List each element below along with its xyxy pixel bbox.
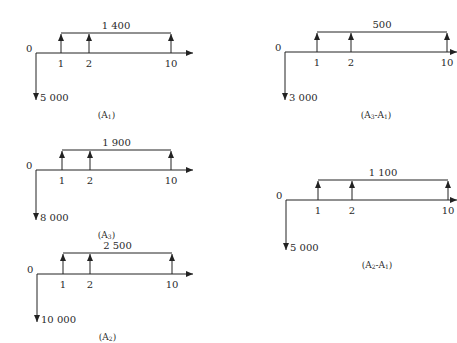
outflow-label: 5 000 xyxy=(40,93,69,103)
caption-text: -A xyxy=(374,110,384,120)
outflow-label: 8 000 xyxy=(40,213,69,223)
caption-text: ) xyxy=(388,110,392,120)
annuity-label: 1 400 xyxy=(102,21,131,31)
tick-label-10: 10 xyxy=(166,280,179,290)
tick-label-10: 10 xyxy=(441,58,454,68)
diagram-caption: (A2-A1) xyxy=(362,260,393,272)
outflow-label: 5 000 xyxy=(290,243,319,253)
tick-label-1: 1 xyxy=(315,206,321,216)
tick-label-10: 10 xyxy=(442,206,455,216)
diagram-caption: (A3-A1) xyxy=(361,110,392,122)
tick-label-1: 1 xyxy=(314,58,320,68)
caption-text: (A xyxy=(99,332,109,342)
annuity-label: 1 900 xyxy=(102,138,131,148)
annuity-label: 500 xyxy=(372,20,391,30)
tick-label-1: 1 xyxy=(60,280,66,290)
tick-label-2: 2 xyxy=(86,59,92,69)
caption-text: -A xyxy=(375,260,385,270)
tick-label-10: 10 xyxy=(165,59,178,69)
tick-label-2: 2 xyxy=(349,206,355,216)
outflow-label: 3 000 xyxy=(289,93,318,103)
outflow-label: 10 000 xyxy=(41,315,76,325)
annuity-label: 1 100 xyxy=(369,168,398,178)
annuity-label: 2 500 xyxy=(103,241,132,251)
caption-text: ) xyxy=(112,230,116,240)
caption-text: (A xyxy=(98,110,108,120)
tick-label-2: 2 xyxy=(87,280,93,290)
caption-text: ) xyxy=(112,110,116,120)
origin-label: 0 xyxy=(26,44,32,54)
caption-text: (A xyxy=(362,260,372,270)
tick-label-1: 1 xyxy=(58,59,64,69)
tick-label-10: 10 xyxy=(165,176,178,186)
origin-label: 0 xyxy=(276,191,282,201)
caption-text: (A xyxy=(98,230,108,240)
origin-label: 0 xyxy=(27,265,33,275)
caption-text: ) xyxy=(113,332,117,342)
caption-text: (A xyxy=(361,110,371,120)
tick-label-2: 2 xyxy=(348,58,354,68)
origin-label: 0 xyxy=(26,161,32,171)
tick-label-2: 2 xyxy=(87,176,93,186)
origin-label: 0 xyxy=(275,43,281,53)
tick-label-1: 1 xyxy=(59,176,65,186)
diagram-caption: (A2) xyxy=(99,332,116,343)
diagram-caption: (A1) xyxy=(98,110,115,122)
caption-text: ) xyxy=(389,260,393,270)
